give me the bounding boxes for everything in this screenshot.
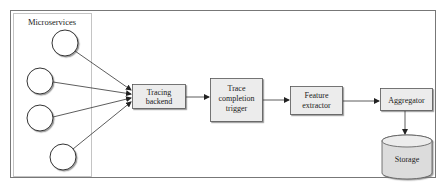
tracing-backend-line-2: backend [146,97,173,106]
trigger-line-1: Trace [228,84,246,93]
microservices-label: Microservices [28,17,76,27]
microservice-node-3 [27,105,53,131]
microservice-node-4 [50,144,76,170]
storage-label: Storage [395,155,420,164]
microservice-node-1 [52,30,78,56]
aggregator-label: Aggregator [388,96,425,105]
tracing-backend-node: Tracing backend [133,85,186,109]
tracing-backend-line-1: Tracing [147,88,172,97]
aggregator-node: Aggregator [381,89,433,111]
feature-extractor-node: Feature extractor [291,87,343,115]
feature-extractor-line-2: extractor [302,101,331,110]
feature-extractor-line-1: Feature [305,91,329,100]
trigger-line-2: completion [219,94,255,103]
trace-completion-trigger-node: Trace completion trigger [211,79,263,122]
trigger-line-3: trigger [226,104,248,113]
pipeline-diagram: Microservices Tracing backend Trace comp… [0,0,446,192]
microservices-group: Microservices [14,14,92,177]
microservice-node-2 [27,68,53,94]
